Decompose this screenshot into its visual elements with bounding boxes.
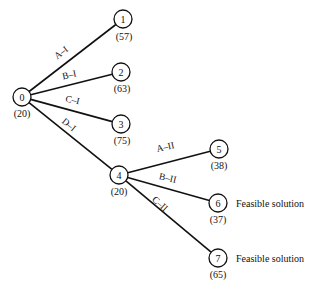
- edge-label: A–I: [52, 44, 70, 61]
- edge-0-4: [29, 103, 112, 170]
- node-label: 0: [20, 92, 25, 103]
- feasible-solution-note: Feasible solution: [236, 253, 304, 264]
- node-label: 4: [117, 170, 122, 181]
- node-label: 5: [217, 144, 222, 155]
- edge-label: C–II: [150, 194, 170, 213]
- node-1: 1(57): [114, 10, 132, 43]
- node-bound-value: (63): [114, 83, 131, 95]
- branch-and-bound-tree: A–IB–IC–ID–IA–IIB–IIC–II 0(20)1(57)2(63)…: [0, 0, 318, 289]
- node-2: 2(63): [112, 63, 130, 95]
- node-bound-value: (37): [210, 214, 227, 226]
- edge-label: C–I: [65, 94, 81, 107]
- node-label: 7: [216, 253, 221, 264]
- node-bound-value: (20): [14, 108, 31, 120]
- edge-label: A–II: [155, 140, 175, 154]
- edge-4-7: [126, 181, 211, 252]
- node-4: 4(20): [110, 166, 128, 198]
- node-label: 1: [121, 14, 126, 25]
- edge-label: B–I: [61, 69, 77, 82]
- node-bound-value: (75): [114, 135, 131, 147]
- node-bound-value: (20): [111, 186, 128, 198]
- node-label: 2: [119, 67, 124, 78]
- node-bound-value: (38): [211, 160, 228, 172]
- node-bound-value: (57): [116, 31, 133, 43]
- edge-4-5: [128, 151, 211, 172]
- node-label: 6: [216, 198, 221, 209]
- edge-label: B–II: [158, 171, 177, 185]
- node-0: 0(20): [13, 88, 31, 120]
- node-7: 7(65)Feasible solution: [209, 249, 304, 281]
- node-label: 3: [119, 119, 124, 130]
- feasible-solution-note: Feasible solution: [236, 198, 304, 209]
- node-3: 3(75): [112, 115, 130, 147]
- edge-0-1: [29, 25, 116, 92]
- node-6: 6(37)Feasible solution: [209, 194, 304, 226]
- node-bound-value: (65): [210, 269, 227, 281]
- node-5: 5(38): [210, 140, 228, 172]
